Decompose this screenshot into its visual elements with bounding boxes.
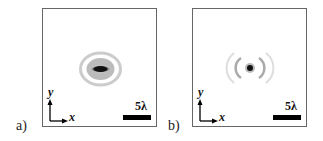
- x-axis-label: x: [69, 110, 75, 125]
- scale-bar-label: 5λ: [285, 99, 297, 114]
- panel-a-intensity-map: 5λ y x: [42, 8, 157, 127]
- panel-a-label: a): [16, 118, 27, 134]
- x-axis-label: x: [219, 110, 225, 125]
- scale-bar-label: 5λ: [135, 99, 147, 114]
- scale-bar: [123, 115, 151, 120]
- y-axis-label: y: [48, 85, 53, 100]
- focal-spot-a: [73, 44, 128, 94]
- panel-b-intensity-map: 5λ y x: [192, 8, 307, 127]
- scale-bar: [273, 115, 301, 120]
- panel-b-label: b): [168, 118, 180, 134]
- focal-spot-b: [220, 43, 280, 93]
- y-axis-label: y: [198, 85, 203, 100]
